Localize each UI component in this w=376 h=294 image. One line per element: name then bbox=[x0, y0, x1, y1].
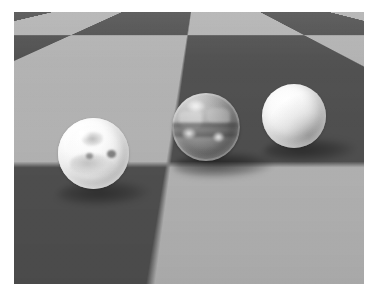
matte-opaque-sphere bbox=[262, 84, 326, 148]
image-canvas bbox=[0, 0, 376, 294]
sphere-rim-light bbox=[58, 118, 129, 189]
sphere-specular-highlight bbox=[75, 127, 91, 139]
sphere-bounce-light bbox=[262, 84, 326, 148]
photo-frame bbox=[14, 12, 364, 284]
frosted-translucent-sphere bbox=[58, 118, 129, 189]
sphere-rim-light bbox=[172, 93, 240, 161]
clear-glass-sphere bbox=[172, 93, 240, 161]
